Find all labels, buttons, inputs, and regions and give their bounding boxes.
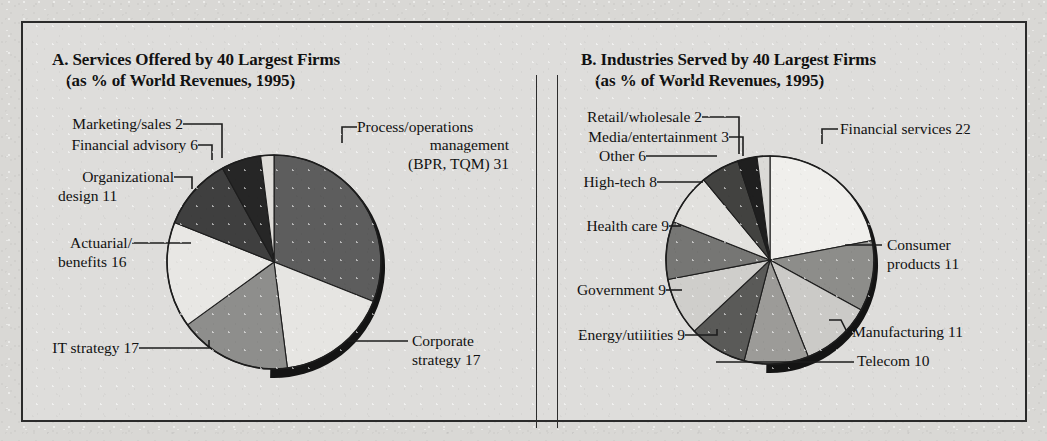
- panel-b: B. Industries Served by 40 Largest Firms…: [557, 23, 1029, 424]
- leader-media: [729, 137, 743, 156]
- label-process-3: (BPR, TQM) 31: [357, 155, 509, 174]
- leader-organizational: [174, 177, 192, 189]
- label-process-2: management: [357, 136, 509, 155]
- label-organizational-design-1: Organizational: [23, 168, 174, 187]
- figure-frame: A. Services Offered by 40 Largest Firms …: [21, 21, 1027, 422]
- label-corporate-2: strategy 17: [412, 351, 480, 370]
- leader-process: [342, 127, 357, 143]
- leader-financial-services: [822, 129, 838, 144]
- label-consumer-1: Consumer: [887, 236, 951, 255]
- page-background: A. Services Offered by 40 Largest Firms …: [0, 0, 1047, 441]
- label-it-strategy: IT strategy 17: [23, 339, 139, 358]
- label-financial-services: Financial services 22: [840, 120, 971, 139]
- leader-it-strategy: [139, 340, 209, 348]
- label-high-tech: High-tech 8: [557, 173, 657, 192]
- label-retail-wholesale: Retail/wholesale 2: [557, 108, 702, 127]
- panel-a: A. Services Offered by 40 Largest Firms …: [23, 23, 536, 424]
- panel-divider-left: [536, 75, 537, 428]
- label-health-care: Health care 9: [557, 217, 669, 236]
- label-consumer-2: products 11: [887, 255, 959, 274]
- label-process-1: Process/operations: [357, 118, 473, 137]
- label-corporate-1: Corporate: [412, 332, 474, 351]
- label-media-entertainment: Media/entertainment 3: [557, 128, 729, 147]
- label-government: Government 9: [557, 281, 666, 300]
- label-manufacturing: Manufacturing 11: [852, 323, 963, 342]
- label-actuarial-2: benefits 16: [58, 253, 126, 272]
- label-energy-utilities: Energy/utilities 9: [557, 326, 685, 345]
- label-telecom: Telecom 10: [857, 352, 930, 371]
- label-marketing-sales: Marketing/sales 2: [23, 115, 183, 134]
- label-financial-advisory: Financial advisory 6: [23, 136, 198, 155]
- label-actuarial-1: Actuarial/: [23, 234, 132, 253]
- leader-financial-advisory: [198, 145, 212, 160]
- label-organizational-design-2: design 11: [58, 187, 117, 206]
- label-other: Other 6: [557, 147, 646, 166]
